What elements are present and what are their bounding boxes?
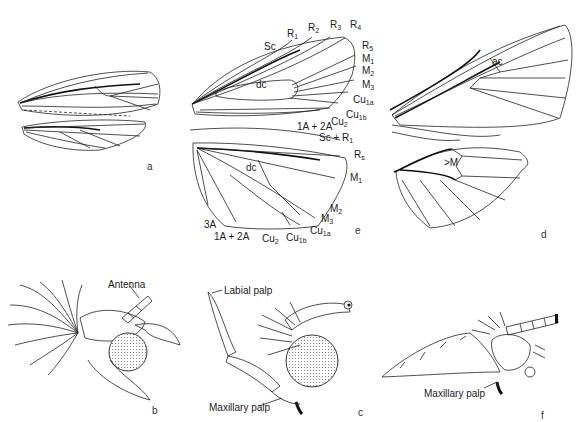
label-m1: M1	[362, 54, 374, 64]
panel-a-wings	[18, 71, 160, 150]
panel-letter-d: d	[541, 229, 547, 240]
label-rs: Rs	[354, 150, 365, 160]
label-1a2a-forewing: 1A + 2A	[297, 122, 332, 132]
label-antenna: Antenna	[108, 280, 145, 290]
label-cu2-hindwing: Cu2	[262, 234, 279, 244]
label-r2: R2	[308, 23, 319, 33]
label-maxillary-palp-f: Maxillary palp	[424, 389, 485, 399]
label-cu1b: Cu1b	[346, 110, 367, 120]
label-m3: M3	[362, 80, 374, 90]
leader-maxillary-f	[484, 382, 497, 388]
label-m: >M	[444, 158, 458, 168]
label-cu1a: Cu1a	[353, 95, 374, 105]
label-sc-r1: Sc + R1	[319, 133, 353, 143]
label-cu1b-hindwing: Cu1b	[286, 233, 307, 243]
label-r4: R4	[350, 20, 361, 30]
label-m3-hindwing: M3	[321, 214, 333, 224]
label-dc-hindwing: dc	[246, 163, 257, 173]
label-1a2a-hindwing: 1A + 2A	[214, 232, 249, 242]
label-r5: R5	[362, 41, 373, 51]
label-cu2: Cu2	[331, 117, 348, 127]
panel-letter-a: a	[147, 161, 153, 172]
leader-labial	[212, 290, 222, 293]
panel-d-hindwing	[394, 148, 528, 228]
label-m2: M2	[362, 66, 374, 76]
panel-d-forewing	[390, 25, 572, 141]
label-maxillary-palp-c: Maxillary palp	[209, 403, 270, 413]
panel-b-head	[8, 280, 180, 400]
label-3a: 3A	[204, 220, 216, 230]
label-dc-forewing: dc	[256, 80, 267, 90]
label-ac: ac	[492, 57, 503, 67]
label-r3: R3	[330, 20, 341, 30]
panel-letter-b: b	[152, 405, 158, 416]
label-labial-palp: Labial palp	[224, 286, 272, 296]
panel-f-head	[382, 312, 558, 394]
label-cu1a-hindwing: Cu1a	[310, 226, 331, 236]
label-m1-hindwing: M1	[350, 173, 362, 183]
panel-letter-e: e	[355, 225, 361, 236]
panel-letter-c: c	[358, 407, 363, 418]
label-m2-hindwing: M2	[330, 204, 342, 214]
label-sc: Sc	[264, 42, 276, 52]
label-r1: R1	[287, 29, 298, 39]
panel-c-head	[208, 292, 352, 414]
panel-letter-f: f	[541, 410, 544, 421]
